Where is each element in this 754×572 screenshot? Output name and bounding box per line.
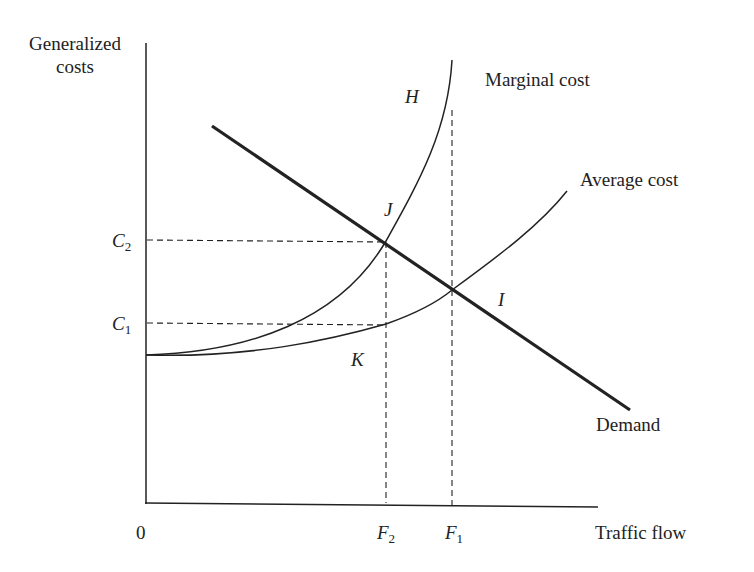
point-k-label: K bbox=[351, 350, 364, 369]
x-axis-label: Traffic flow bbox=[595, 523, 686, 542]
f1-tick-label: F1 bbox=[445, 523, 463, 545]
c2-guide bbox=[147, 240, 386, 242]
demand-label: Demand bbox=[596, 415, 660, 434]
average-cost-label: Average cost bbox=[580, 170, 678, 189]
y-axis-label: Generalized costs bbox=[20, 34, 130, 76]
diagram-canvas bbox=[0, 0, 754, 572]
x-axis bbox=[145, 503, 598, 507]
average-cost-curve bbox=[146, 191, 567, 355]
marginal-cost-label: Marginal cost bbox=[485, 70, 590, 89]
point-i-label: I bbox=[498, 290, 504, 309]
f2-tick-label: F2 bbox=[377, 523, 395, 545]
c2-tick-label: C2 bbox=[112, 231, 131, 253]
point-h-label: H bbox=[405, 87, 419, 106]
demand-curve bbox=[212, 126, 630, 410]
origin-label: 0 bbox=[136, 523, 146, 542]
c1-tick-label: C1 bbox=[112, 314, 131, 336]
c1-guide bbox=[147, 323, 386, 325]
point-j-label: J bbox=[384, 200, 392, 219]
